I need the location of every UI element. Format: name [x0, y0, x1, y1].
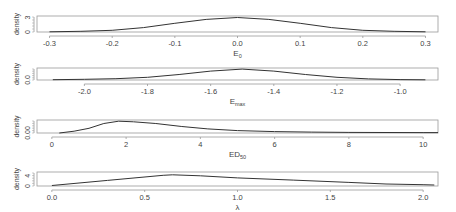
y-tick-label: 4 — [24, 174, 31, 178]
x-tick-label: -0.2 — [106, 39, 119, 48]
y-tick-label: 3 — [24, 15, 31, 19]
x-axis-label: ED50 — [229, 150, 246, 160]
x-axis-label: λ — [236, 203, 240, 212]
x-axis-label: Emax — [230, 97, 246, 107]
y-tick-label: 0.00 — [24, 126, 31, 140]
x-tick-label: -0.3 — [43, 39, 56, 48]
x-tick-label: -1.6 — [204, 87, 217, 96]
density-plot-figure: -0.3-0.2-0.10.00.10.20.303densityE0-2.0-… — [0, 0, 456, 212]
density-panel-4: 0.00.51.01.52.004densityλ — [13, 167, 438, 212]
x-tick-label: 0 — [50, 140, 54, 149]
y-tick-label: 0 — [24, 184, 31, 188]
x-tick-label: 0.3 — [420, 39, 430, 48]
x-tick-label: 0.0 — [232, 39, 242, 48]
x-tick-label: -1.8 — [141, 87, 154, 96]
x-tick-label: -1.4 — [267, 87, 280, 96]
density-curve — [53, 69, 426, 80]
plot-frame — [37, 16, 438, 32]
x-tick-label: 0.5 — [139, 193, 149, 202]
x-tick-label: -2.0 — [78, 87, 91, 96]
x-tick-label: 2.0 — [418, 193, 428, 202]
x-tick-label: 10 — [419, 140, 427, 149]
x-tick-label: 2 — [124, 140, 128, 149]
y-axis-label: density — [13, 167, 21, 190]
y-tick-label: 0 — [24, 30, 31, 34]
density-panel-2: -2.0-1.8-1.6-1.4-1.2-1.00.0densityEmax — [13, 62, 438, 107]
x-tick-label: -1.0 — [394, 87, 407, 96]
x-tick-label: 4 — [198, 140, 202, 149]
density-curve — [59, 121, 438, 133]
x-tick-label: 6 — [273, 140, 277, 149]
x-tick-label: 0.0 — [47, 193, 57, 202]
y-axis-label: density — [13, 115, 21, 138]
density-panel-3: 02468100.00densityED50 — [13, 115, 438, 160]
y-tick-label: 0.0 — [24, 75, 31, 85]
density-panel-1: -0.3-0.2-0.10.00.10.20.303densityE0 — [13, 12, 438, 59]
x-tick-label: 8 — [347, 140, 351, 149]
y-axis-label: density — [13, 62, 21, 85]
x-tick-label: 1.0 — [232, 193, 242, 202]
x-tick-label: -1.2 — [330, 87, 343, 96]
x-tick-label: -0.1 — [168, 39, 181, 48]
x-tick-label: 0.1 — [295, 39, 305, 48]
density-curve — [50, 18, 426, 32]
density-curve — [52, 175, 434, 186]
x-axis-label: E0 — [233, 49, 241, 59]
x-tick-label: 1.5 — [325, 193, 335, 202]
y-axis-label: density — [13, 12, 21, 35]
x-tick-label: 0.2 — [358, 39, 368, 48]
